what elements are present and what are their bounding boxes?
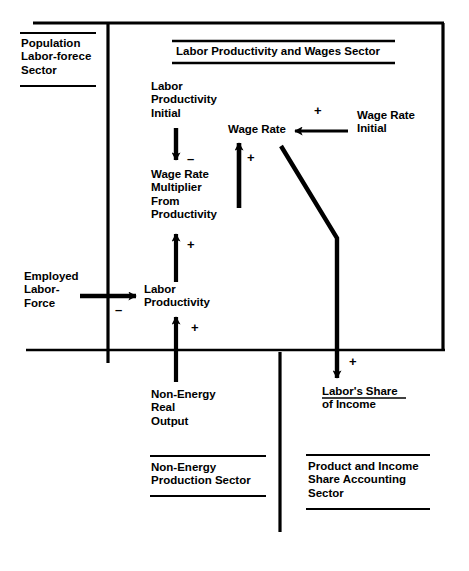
- polarity-sign-nero-to-lp: +: [191, 321, 199, 334]
- polarity-sign-wrm-to-wage-rate: +: [247, 151, 255, 164]
- node-labors-share-of-income: Labor's Share of Income: [322, 385, 398, 412]
- polarity-sign-elf-to-lp: –: [115, 303, 122, 316]
- sector-caption-product-income-share-accounting: Product and Income Share Accounting Sect…: [308, 460, 419, 500]
- node-employed-labor-force: Employed Labor- Force: [24, 270, 79, 310]
- node-non-energy-real-output: Non-Energy Real Output: [151, 388, 216, 428]
- polarity-sign-lpi-to-wrm: –: [187, 152, 194, 165]
- sector-caption-population-labor-force: Population Labor-forece Sector: [21, 37, 91, 77]
- node-labor-productivity: Labor Productivity: [144, 283, 210, 310]
- arrow-wage-rate-to-lsi: [281, 146, 337, 378]
- node-wage-rate: Wage Rate: [228, 123, 286, 136]
- sector-caption-rules: [20, 33, 430, 509]
- node-wage-rate-multiplier-from-productivity: Wage Rate Multiplier From Productivity: [151, 168, 217, 222]
- sector-caption-labor-productivity-wages: Labor Productivity and Wages Sector: [176, 45, 380, 58]
- polarity-sign-wri-to-wage-rate: +: [314, 104, 322, 117]
- system-dynamics-diagram: Population Labor-forece Sector Labor Pro…: [0, 0, 469, 571]
- sector-caption-non-energy-production: Non-Energy Production Sector: [151, 461, 251, 488]
- node-wage-rate-initial: Wage Rate Initial: [357, 109, 415, 136]
- causal-arrows: [80, 128, 348, 382]
- node-labor-productivity-initial: Labor Productivity Initial: [151, 80, 217, 120]
- polarity-sign-wage-rate-to-lsi: +: [349, 355, 357, 368]
- polarity-sign-lp-to-wrm: +: [187, 238, 195, 251]
